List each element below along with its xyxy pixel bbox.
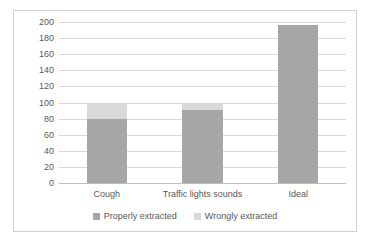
bar-segment[interactable]	[182, 110, 222, 183]
bar-group[interactable]	[182, 22, 222, 183]
y-tick-label: 180	[39, 34, 54, 43]
bar-segment[interactable]	[87, 119, 127, 183]
x-tick-label: Ideal	[288, 190, 308, 199]
chart-frame: 020406080100120140160180200 CoughTraffic…	[13, 10, 357, 232]
bar-stack[interactable]	[182, 103, 222, 183]
legend-label: Properly extracted	[104, 212, 177, 221]
y-tick-label: 120	[39, 82, 54, 91]
y-tick-label: 140	[39, 66, 54, 75]
y-tick-label: 20	[44, 162, 54, 171]
bar-series-layer	[59, 22, 346, 183]
y-tick-label: 40	[44, 146, 54, 155]
legend-swatch-icon	[194, 213, 201, 220]
gridline-0	[59, 183, 346, 184]
bar-group[interactable]	[87, 22, 127, 183]
bar-stack[interactable]	[87, 103, 127, 184]
x-tick-label: Cough	[94, 190, 121, 199]
plot-area: 020406080100120140160180200 CoughTraffic…	[59, 22, 346, 183]
legend-item[interactable]: Wrongly extracted	[194, 212, 277, 221]
bar-group[interactable]	[278, 22, 318, 183]
chart-legend: Properly extractedWrongly extracted	[14, 212, 356, 221]
y-tick-label: 0	[49, 179, 54, 188]
y-tick-label: 80	[44, 114, 54, 123]
y-tick-label: 60	[44, 130, 54, 139]
y-tick-label: 200	[39, 18, 54, 27]
y-tick-label: 100	[39, 98, 54, 107]
legend-label: Wrongly extracted	[205, 212, 277, 221]
bar-segment[interactable]	[278, 25, 318, 183]
bar-segment[interactable]	[87, 103, 127, 120]
legend-swatch-icon	[93, 213, 100, 220]
y-tick-label: 160	[39, 50, 54, 59]
x-tick-label: Traffic lights sounds	[163, 190, 243, 199]
legend-item[interactable]: Properly extracted	[93, 212, 177, 221]
bar-stack[interactable]	[278, 25, 318, 183]
